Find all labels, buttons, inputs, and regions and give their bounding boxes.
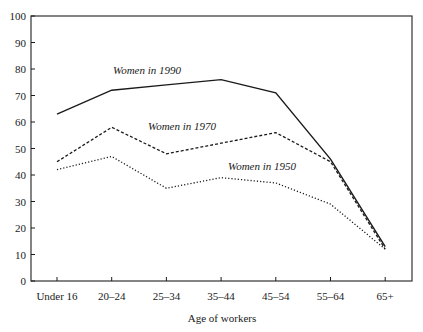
x-axis-title: Age of workers [188,312,256,324]
y-tick-label: 30 [15,196,27,208]
y-tick-label: 70 [15,90,27,102]
x-tick-label: 25–34 [153,290,181,302]
x-tick-label: 35–44 [207,290,235,302]
x-tick-label: 65+ [377,290,394,302]
y-tick-label: 40 [15,169,27,181]
series-label: Women in 1990 [113,64,182,76]
series-lines [57,80,385,250]
series-line-women-in-1970 [57,127,385,249]
y-tick-label: 10 [15,249,27,261]
series-label: Women in 1950 [228,160,297,172]
line-chart: 0102030405060708090100 Under 1620–2425–3… [0,0,423,332]
y-tick-label: 20 [15,222,27,234]
x-tick-label: 45–54 [262,290,290,302]
y-tick-label: 0 [21,275,27,287]
plot-frame [31,16,412,281]
y-tick-label: 90 [15,37,27,49]
x-tick-label: 20–24 [98,290,126,302]
y-tick-label: 80 [15,63,27,75]
x-tick-label: 55–64 [317,290,345,302]
series-label: Women in 1970 [148,120,217,132]
y-tick-label: 60 [15,116,27,128]
y-tick-label: 50 [15,143,27,155]
series-line-women-in-1990 [57,80,385,247]
x-tick-label: Under 16 [36,290,78,302]
y-tick-label: 100 [10,10,27,22]
series-line-women-in-1950 [57,156,385,249]
series-labels: Women in 1990Women in 1970Women in 1950 [113,64,297,172]
